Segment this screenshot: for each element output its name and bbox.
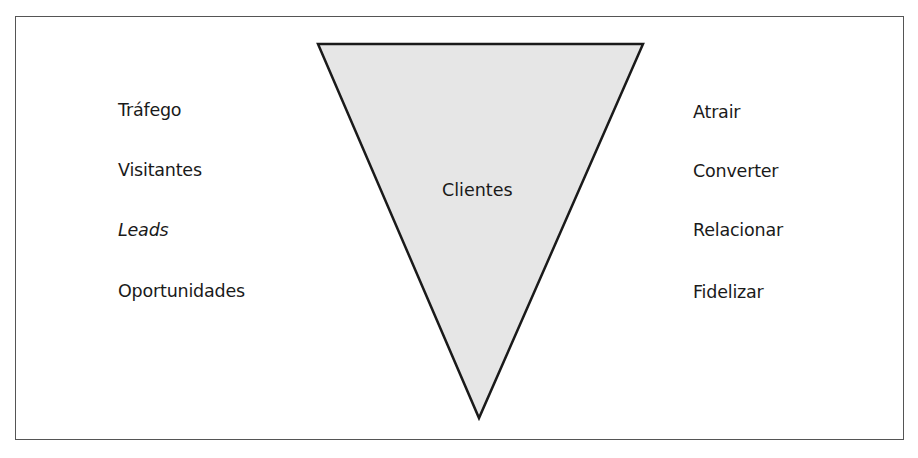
right-label-atrair: Atrair bbox=[693, 102, 740, 122]
left-label-visitantes: Visitantes bbox=[118, 160, 202, 180]
left-label-oportunidades: Oportunidades bbox=[118, 281, 245, 301]
left-label-trafego: Tráfego bbox=[118, 100, 181, 120]
funnel-center-label: Clientes bbox=[442, 180, 513, 200]
left-label-leads: Leads bbox=[118, 220, 168, 240]
right-label-relacionar: Relacionar bbox=[693, 220, 783, 240]
right-label-fidelizar: Fidelizar bbox=[693, 282, 764, 302]
right-label-converter: Converter bbox=[693, 161, 778, 181]
